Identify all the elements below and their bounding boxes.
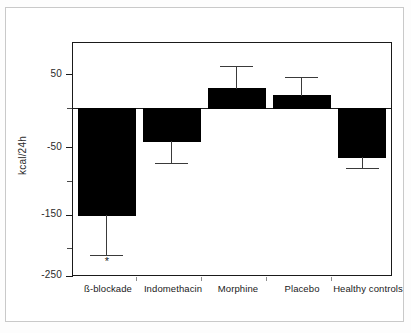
x-tick-mark-4	[331, 277, 332, 281]
figure-container: kcal/24h 50 -50 -150 -250 * ß-blockade I…	[0, 0, 411, 333]
x-axis-label-placebo: Placebo	[271, 283, 333, 294]
x-axis-label-morphine: Morphine	[205, 283, 271, 294]
x-tick-mark-3	[266, 277, 267, 281]
y-tick-label-neg250: -250	[22, 269, 62, 280]
bar-b-blockade	[78, 108, 136, 216]
significance-marker-b-blockade: *	[98, 258, 116, 264]
x-axis-label-indomethacin: Indomethacin	[138, 283, 208, 294]
errorbar-line-morphine	[236, 66, 237, 89]
errorbar-cap-healthy-controls	[346, 168, 379, 169]
x-tick-mark-1	[136, 277, 137, 281]
y-tick-label-50: 50	[22, 68, 62, 79]
bar-morphine	[208, 88, 266, 109]
errorbar-cap-placebo	[285, 77, 318, 78]
errorbar-line-healthy-controls	[362, 157, 363, 168]
y-axis-title: kcal/24h	[17, 116, 28, 196]
errorbar-line-indomethacin	[171, 141, 172, 164]
bar-placebo	[273, 95, 331, 109]
errorbar-line-placebo	[301, 77, 302, 96]
errorbar-line-b-blockade	[106, 215, 107, 256]
bar-indomethacin	[143, 108, 201, 142]
x-tick-mark-2	[201, 277, 202, 281]
y-tick-label-neg50: -50	[22, 141, 62, 152]
y-tick-mark-neg250	[66, 276, 73, 277]
x-axis-label-healthy-controls: Healthy controls	[330, 283, 406, 294]
y-tick-label-neg150: -150	[22, 208, 62, 219]
errorbar-cap-indomethacin	[155, 163, 188, 164]
x-axis-label-b-blockade: ß-blockade	[74, 283, 142, 294]
bar-healthy-controls	[338, 108, 386, 158]
errorbar-cap-morphine	[220, 66, 253, 67]
